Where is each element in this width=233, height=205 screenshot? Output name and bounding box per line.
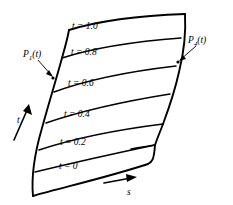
right-boundary-curve-p4 bbox=[163, 14, 185, 124]
axis-label-t: t bbox=[17, 116, 20, 126]
axis-label-s: s bbox=[127, 188, 131, 198]
right-boundary-curve-p4-lower bbox=[155, 124, 163, 145]
parametric-patch-figure: t = 1.0 t = 0.8 t = 0.6 t = 0.4 t = 0.2 … bbox=[0, 0, 233, 205]
iso-label-t-1-0: t = 1.0 bbox=[72, 22, 98, 32]
t-axis-arrowhead bbox=[23, 104, 32, 115]
iso-label-t-0-4: t = 0.4 bbox=[64, 110, 90, 120]
bottom-boundary-curve bbox=[33, 145, 155, 196]
p4-anchor-dot bbox=[176, 60, 179, 63]
s-axis-arrowhead bbox=[126, 174, 137, 182]
patch-diagram-svg bbox=[0, 0, 233, 205]
notch-curve bbox=[131, 145, 155, 149]
iso-label-t-0-2: t = 0.2 bbox=[60, 138, 86, 148]
p4-suffix: (t) bbox=[197, 35, 206, 45]
p1-anchor-dot bbox=[51, 76, 54, 79]
iso-label-t-0-8: t = 0.8 bbox=[71, 48, 97, 58]
iso-label-t-0: t = 0 bbox=[59, 162, 78, 172]
boundary-label-p4: P4(t) bbox=[188, 36, 206, 48]
p1-leader-arrowhead bbox=[46, 70, 53, 77]
iso-label-t-0-6: t = 0.6 bbox=[68, 79, 94, 89]
p1-suffix: (t) bbox=[32, 49, 41, 59]
boundary-label-p1: P1(t) bbox=[23, 50, 41, 62]
